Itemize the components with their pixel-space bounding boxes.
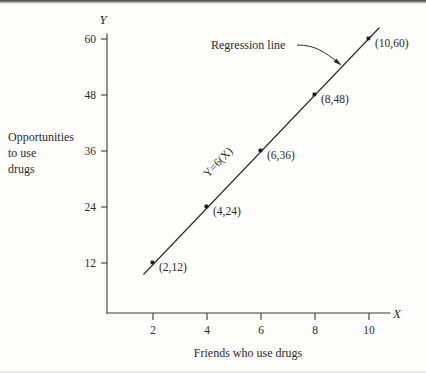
y-axis-tick-labels: 60 48 36 24 12 — [85, 33, 97, 269]
x-axis-ticks — [153, 313, 369, 320]
y-axis-letter: Y — [99, 12, 108, 27]
x-tick-label-10: 10 — [363, 324, 375, 336]
data-point-8-48 — [313, 93, 317, 97]
y-axis-title: Opportunities to use drugs — [8, 130, 74, 176]
data-point-label-8-48: (8,48) — [321, 93, 349, 106]
axis-lines — [107, 34, 390, 313]
y-axis-title-line-3: drugs — [8, 162, 35, 176]
regression-figure: 60 48 36 24 12 2 4 6 8 10 Y X Friends wh… — [0, 0, 426, 373]
x-tick-label-6: 6 — [258, 324, 264, 336]
data-point-4-24 — [205, 205, 209, 209]
data-point-label-6-36: (6,36) — [267, 149, 295, 162]
y-tick-label-12: 12 — [85, 257, 97, 269]
x-tick-label-8: 8 — [312, 324, 318, 336]
x-axis-title: Friends who use drugs — [194, 346, 303, 360]
x-tick-label-2: 2 — [150, 324, 156, 336]
y-tick-label-48: 48 — [85, 89, 97, 101]
y-axis-title-line-2: to use — [8, 146, 36, 160]
y-tick-label-60: 60 — [85, 33, 97, 45]
regression-line-annotation-arrow — [297, 45, 342, 65]
data-points — [151, 37, 371, 265]
data-point-10-60 — [367, 37, 371, 41]
data-point-label-10-60: (10,60) — [375, 37, 409, 50]
regression-line-annotation: Regression line — [211, 38, 285, 52]
data-point-label-4-24: (4,24) — [213, 205, 241, 218]
y-tick-label-24: 24 — [85, 201, 97, 213]
y-axis-title-line-1: Opportunities — [8, 130, 74, 144]
regression-equation-label: Y=6(X) — [201, 145, 236, 180]
x-axis-tick-labels: 2 4 6 8 10 — [150, 324, 375, 336]
data-point-label-2-12: (2,12) — [159, 261, 187, 274]
data-point-labels: (2,12) (4,24) (6,36) (8,48) (10,60) — [159, 37, 409, 274]
data-point-6-36 — [259, 149, 263, 153]
data-point-2-12 — [151, 261, 155, 265]
x-tick-label-4: 4 — [204, 324, 210, 336]
plot-area: 60 48 36 24 12 2 4 6 8 10 Y X Friends wh… — [0, 0, 426, 373]
y-tick-label-36: 36 — [85, 145, 97, 157]
x-axis-letter: X — [392, 306, 402, 321]
y-axis-ticks — [101, 39, 107, 263]
